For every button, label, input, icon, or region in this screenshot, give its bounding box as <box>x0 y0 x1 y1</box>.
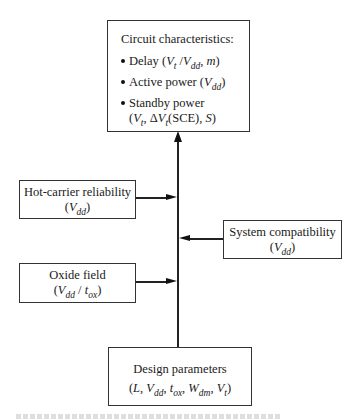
bullet-icon <box>121 80 125 84</box>
system-compatibility-title: System compatibility <box>224 225 341 240</box>
hot-carrier-reliability-box: Hot-carrier reliability (Vdd) <box>19 180 136 219</box>
oxide-field-connector <box>136 281 167 283</box>
oxide-field-box: Oxide field (Vdd / tox) <box>19 263 136 303</box>
active-power-item: Active power (Vdd) <box>121 75 225 90</box>
bullet-icon <box>121 59 125 63</box>
arrow-left-icon <box>179 235 190 241</box>
arrow-right-icon <box>166 194 177 200</box>
figure-caption-cutoff <box>16 414 281 419</box>
standby-power-params: (Vt, ΔVt(SCE), S) <box>129 111 216 126</box>
hot-carrier-connector <box>136 197 167 199</box>
design-parameters-box: Design parameters (L, Vdd, tox, Wdm, Vt) <box>108 347 252 406</box>
arrow-up-to-circuit-characteristics-icon <box>174 131 182 142</box>
hot-carrier-title: Hot-carrier reliability <box>20 185 135 200</box>
delay-item: Delay (Vt /Vdd, m) <box>121 54 220 69</box>
oxide-field-title: Oxide field <box>20 268 135 283</box>
system-compatibility-connector <box>189 238 223 240</box>
circuit-characteristics-box: Circuit characteristics: Delay (Vt /Vdd,… <box>107 20 250 132</box>
system-compatibility-params: (Vdd) <box>224 240 341 255</box>
system-compatibility-box: System compatibility (Vdd) <box>223 220 342 259</box>
circuit-characteristics-title: Circuit characteristics: <box>121 32 234 47</box>
arrow-right-icon <box>166 278 177 284</box>
main-vertical-connector <box>177 141 179 347</box>
design-parameters-params: (L, Vdd, tox, Wdm, Vt) <box>109 381 251 396</box>
bullet-icon <box>121 101 125 105</box>
design-parameters-title: Design parameters <box>109 362 251 377</box>
oxide-field-params: (Vdd / tox) <box>20 283 135 298</box>
hot-carrier-params: (Vdd) <box>20 200 135 215</box>
standby-power-item: Standby power <box>121 96 204 111</box>
